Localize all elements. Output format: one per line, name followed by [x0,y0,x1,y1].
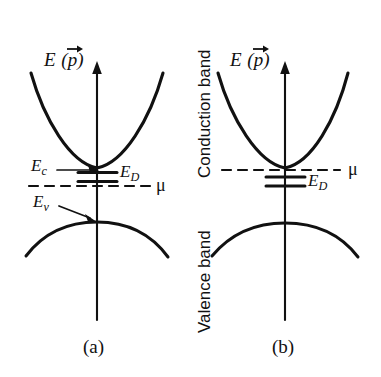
panel-a-level-label-ec: Ec [31,157,47,177]
panel-b-chemical-potential-label: μ [348,160,358,178]
band-diagram-figure: E (p) Ec ED Ev μ E (p) ED μ Conduction b… [0,0,381,377]
panel-a-axis-label-E: E [44,49,56,70]
panel-a-axis-label-p-vector: p [68,50,78,69]
panel-a-ed-subscript: D [130,170,139,184]
panel-b-energy-axis [280,61,290,320]
panel-a-ev-leader [59,206,97,222]
panel-a-ec-subscript: c [41,164,46,178]
conduction-band-label: Conduction band [196,49,213,178]
panel-a-level-label-ev: Ev [33,193,49,213]
panel-a-ev-symbol: E [33,192,43,211]
panel-a-chemical-potential-label: μ [156,176,166,194]
panel-b-ed-subscript: D [318,179,327,193]
panel-a-axis-label-p: p [68,49,78,70]
panel-a-axis-label-close-paren: ) [77,49,83,70]
panel-b-axis-label-close-paren: ) [263,49,269,70]
panel-a-ev-subscript: v [43,200,48,214]
panel-b-ed-symbol: E [308,171,318,190]
panel-b-axis-label: E (p) [230,50,270,69]
panel-b-conduction-band-curve [218,73,348,168]
panel-b-axis-label-E: E [230,49,242,70]
panel-a-level-label-ed: ED [120,163,139,183]
panel-a-ec-symbol: E [31,156,41,175]
panel-a-caption: (a) [83,337,104,356]
panel-a-axis-label: E (p) [44,50,84,69]
panel-b-axis-label-p-vector: p [254,50,264,69]
valence-band-label: Valence band [196,230,213,333]
panel-b-level-label-ed: ED [308,172,327,192]
panel-a-ed-symbol: E [120,162,130,181]
panel-b-axis-label-p: p [254,49,264,70]
panel-b-caption: (b) [272,337,294,356]
panel-a-energy-axis [92,61,102,320]
